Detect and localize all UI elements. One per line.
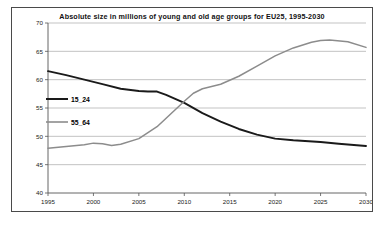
x-tick-label: 2020 (268, 198, 282, 205)
data-series-group (48, 40, 366, 148)
y-tick-label: 40 (36, 189, 43, 196)
y-tick-label: 50 (36, 133, 43, 140)
x-tick-label: 2010 (177, 198, 191, 205)
y-axis-ticks-group: 40455055606570 (36, 19, 48, 196)
x-tick-label: 2025 (314, 198, 328, 205)
y-tick-label: 45 (36, 161, 43, 168)
series-line-55_64 (48, 40, 366, 148)
y-tick-label: 65 (36, 48, 43, 55)
chart-container: Absolute size in millions of young and o… (11, 7, 373, 212)
x-tick-label: 2030 (359, 198, 372, 205)
y-tick-label: 55 (36, 104, 43, 111)
y-tick-label: 60 (36, 76, 43, 83)
x-tick-label: 1995 (41, 198, 55, 205)
chart-legend: 15_2455_64 (46, 96, 90, 126)
series-line-15_24 (48, 71, 366, 146)
x-tick-label: 2000 (87, 198, 101, 205)
legend-label-15_24: 15_24 (71, 96, 90, 103)
line-chart-plot: 40455055606570 1995200020052010201520202… (12, 8, 372, 211)
x-tick-label: 2015 (223, 198, 237, 205)
y-tick-label: 70 (36, 19, 43, 26)
x-axis-ticks-group: 19952000200520102015202020252030 (41, 193, 372, 205)
x-tick-label: 2005 (132, 198, 146, 205)
legend-label-55_64: 55_64 (71, 119, 90, 126)
